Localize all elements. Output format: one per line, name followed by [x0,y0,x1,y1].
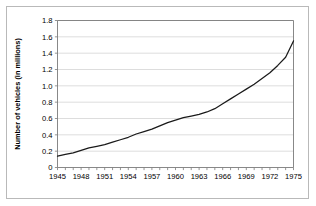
svg-text:0.4: 0.4 [42,131,53,140]
svg-text:0: 0 [48,163,52,172]
svg-text:1963: 1963 [191,172,208,181]
svg-text:1948: 1948 [73,172,90,181]
svg-text:0.6: 0.6 [42,114,53,123]
svg-text:1945: 1945 [49,172,66,181]
svg-text:1954: 1954 [120,172,137,181]
svg-text:1951: 1951 [96,172,113,181]
gridlines [58,21,294,152]
svg-text:1975: 1975 [285,172,302,181]
line-chart: 00.20.40.60.81.01.21.41.61.8 19451948195… [0,0,316,206]
svg-text:1.6: 1.6 [42,33,53,42]
svg-text:1.2: 1.2 [42,65,53,74]
chart-figure: 00.20.40.60.81.01.21.41.61.8 19451948195… [0,0,316,206]
svg-text:1.8: 1.8 [42,16,53,25]
svg-text:1.4: 1.4 [42,49,53,58]
svg-text:1966: 1966 [214,172,231,181]
y-axis-tick-labels: 00.20.40.60.81.01.21.41.61.8 [42,16,53,172]
y-axis-title: Number of vehicles (in millions) [13,38,22,150]
svg-text:1969: 1969 [238,172,255,181]
svg-text:1960: 1960 [167,172,184,181]
svg-text:1957: 1957 [143,172,160,181]
svg-text:1.0: 1.0 [42,82,53,91]
x-axis-tick-labels: 1945194819511954195719601963196619691972… [49,172,302,181]
svg-text:1972: 1972 [261,172,278,181]
svg-text:0.8: 0.8 [42,98,53,107]
plot-area-frame [58,21,294,168]
data-series-line [58,41,294,156]
svg-text:0.2: 0.2 [42,147,53,156]
